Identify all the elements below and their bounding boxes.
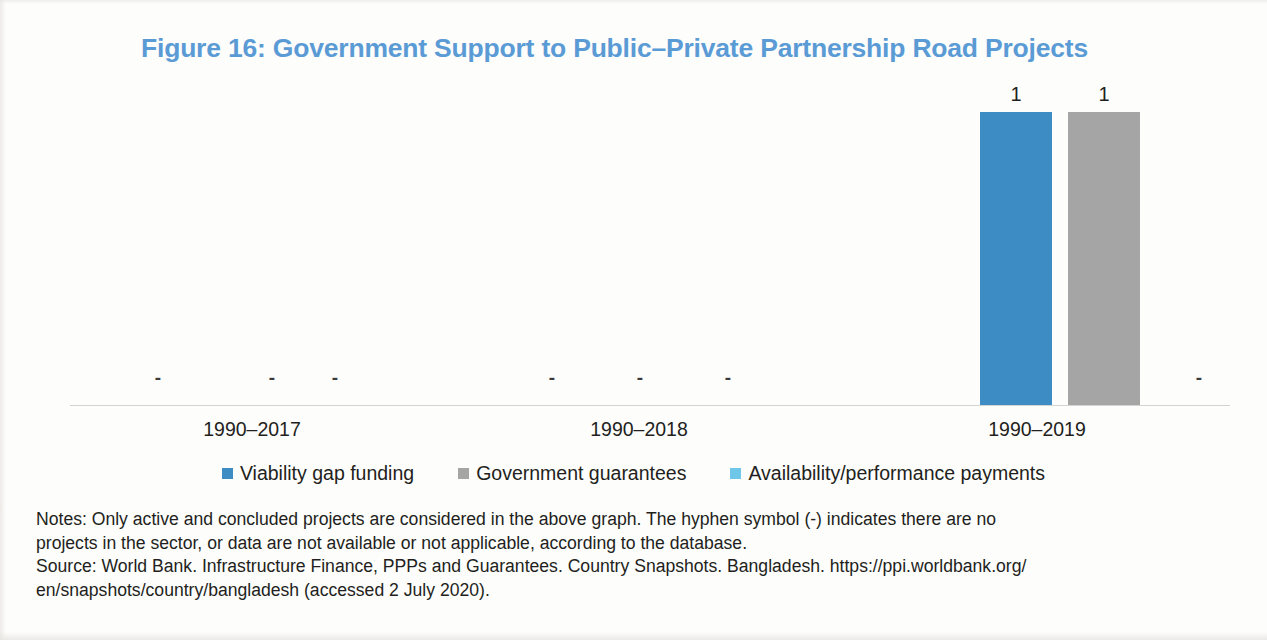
bar-value-label: 1: [980, 83, 1052, 106]
bar-slot-gg-2018: -: [610, 70, 670, 405]
bar-viability-gap-funding[interactable]: [980, 112, 1052, 405]
x-axis-tick-label-3: 1990–2019: [917, 418, 1157, 441]
figure-page: Figure 16: Government Support to Public–…: [0, 0, 1267, 640]
page-edge-top: [0, 0, 1267, 4]
bar-slot-vgf-2017: -: [128, 70, 188, 405]
figure-notes: Notes: Only active and concluded project…: [36, 508, 1231, 602]
bar-slot-app-2018: -: [698, 70, 758, 405]
legend-item-viability-gap-funding[interactable]: Viability gap funding: [222, 462, 414, 485]
bar-group-1990-2019: 1 1 -: [844, 70, 1230, 405]
legend-label: Viability gap funding: [240, 462, 414, 485]
bar-value-label: 1: [1068, 83, 1140, 106]
missing-dash: -: [128, 373, 188, 383]
page-edge-left: [0, 0, 6, 640]
legend-item-availability-performance-payments[interactable]: Availability/performance payments: [730, 462, 1045, 485]
page-edge-bottom: [0, 632, 1267, 640]
bar-government-guarantees[interactable]: [1068, 112, 1140, 405]
chart-bars-container: - - - - - -: [70, 70, 1230, 405]
bar-slot-vgf-2019: 1: [980, 70, 1052, 405]
legend-label: Government guarantees: [476, 462, 686, 485]
source-line-2: en/snapshots/country/bangladesh (accesse…: [36, 579, 1231, 603]
x-axis-tick-label-1: 1990–2017: [132, 418, 372, 441]
legend-swatch-icon: [730, 468, 741, 479]
legend-item-government-guarantees[interactable]: Government guarantees: [458, 462, 686, 485]
bar-slot-gg-2019: 1: [1068, 70, 1140, 405]
missing-dash: -: [242, 373, 302, 383]
chart-legend: Viability gap funding Government guarant…: [0, 462, 1267, 485]
notes-line-2: projects in the sector, or data are not …: [36, 532, 1231, 556]
missing-dash: -: [698, 373, 758, 383]
chart-plot-area: - - - - - -: [70, 70, 1230, 405]
source-line-1: Source: World Bank. Infrastructure Finan…: [36, 555, 1231, 579]
bar-slot-app-2017: -: [305, 70, 365, 405]
bar-group-1990-2018: - - -: [457, 70, 844, 405]
legend-swatch-icon: [458, 468, 469, 479]
legend-label: Availability/performance payments: [748, 462, 1045, 485]
missing-dash: -: [1169, 373, 1229, 383]
missing-dash: -: [610, 373, 670, 383]
figure-title: Figure 16: Government Support to Public–…: [141, 33, 1151, 64]
missing-dash: -: [522, 373, 582, 383]
x-axis-line: [70, 405, 1230, 406]
bar-slot-vgf-2018: -: [522, 70, 582, 405]
notes-line-1: Notes: Only active and concluded project…: [36, 508, 1231, 532]
x-axis-tick-label-2: 1990–2018: [519, 418, 759, 441]
legend-swatch-icon: [222, 468, 233, 479]
bar-slot-app-2019: -: [1169, 70, 1229, 405]
bar-group-1990-2017: - - -: [70, 70, 457, 405]
bar-slot-gg-2017: -: [242, 70, 302, 405]
missing-dash: -: [305, 373, 365, 383]
